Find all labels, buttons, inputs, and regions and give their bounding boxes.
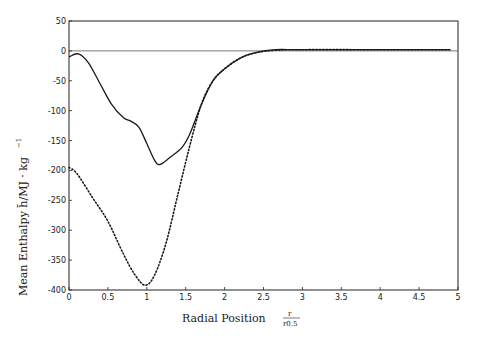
x-tick-label: 0 (66, 293, 71, 302)
x-tick-label: 1.5 (179, 293, 192, 302)
x-fraction-numerator: r (288, 310, 292, 318)
plot-border (69, 21, 458, 290)
x-tick-label: 1 (144, 293, 149, 302)
y-tick-label: -50 (53, 77, 66, 86)
series-layer (69, 49, 450, 285)
x-tick-label: 5 (455, 293, 460, 302)
x-axis-title-fraction: r r0.5 (283, 310, 300, 328)
y-tick-label: -100 (48, 107, 66, 116)
x-tick-label: 2.5 (257, 293, 270, 302)
ticks: 00.511.522.533.544.55500-50-100-150-200-… (48, 17, 461, 302)
y-axis-title-group: Mean Enthalpy h̄/MJ · kg −1 (15, 138, 30, 296)
x-tick-label: 4.5 (413, 293, 426, 302)
x-axis-title: Radial Position (182, 312, 266, 325)
y-tick-label: -200 (48, 166, 66, 175)
x-tick-label: 4 (378, 293, 383, 302)
x-tick-label: 3.5 (335, 293, 348, 302)
series-line-dotted (69, 50, 450, 286)
series-line-solid (69, 49, 450, 164)
x-fraction-denominator: r0.5 (283, 320, 297, 328)
plot-frame (69, 21, 458, 290)
y-axis-title-superscript: −1 (15, 138, 23, 148)
x-tick-label: 0.5 (102, 293, 115, 302)
y-tick-label: -250 (48, 196, 66, 205)
y-tick-label: 0 (61, 47, 66, 56)
x-tick-label: 2 (222, 293, 227, 302)
y-tick-label: 50 (56, 17, 66, 26)
y-tick-label: -300 (48, 226, 66, 235)
chart: 00.511.522.533.544.55500-50-100-150-200-… (0, 0, 477, 339)
y-tick-label: -350 (48, 256, 66, 265)
y-tick-label: -400 (48, 286, 66, 295)
x-tick-label: 3 (300, 293, 305, 302)
y-axis-title: Mean Enthalpy h̄/MJ · kg (17, 157, 30, 296)
y-tick-label: -150 (48, 137, 66, 146)
